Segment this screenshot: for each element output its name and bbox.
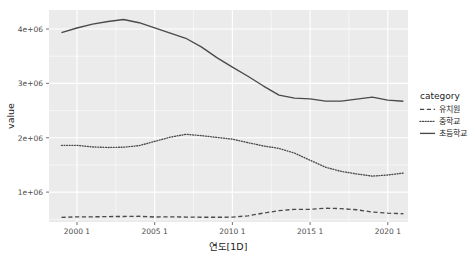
y-tick-label: 3e+06: [18, 79, 43, 88]
y-tick-label: 1e+06: [18, 188, 43, 197]
plot-panel: [49, 10, 408, 222]
legend-item-label: 유치원: [439, 105, 460, 114]
line-chart: 2000 12005 12010 12015 12020 1 1e+062e+0…: [0, 0, 475, 261]
chart-container: 2000 12005 12010 12015 12020 1 1e+062e+0…: [0, 0, 475, 261]
x-tick-label: 2020 1: [375, 227, 401, 236]
y-tick-label: 4e+06: [18, 25, 43, 34]
x-tick-label: 2005 1: [142, 227, 168, 236]
legend-item-label: 초등학교: [439, 128, 467, 138]
y-axis-title: value: [5, 103, 16, 129]
legend-item-label: 중학교: [439, 116, 460, 126]
x-tick-label: 2015 1: [297, 227, 323, 236]
x-tick-label: 2010 1: [219, 227, 245, 236]
x-tick-label: 2000 1: [64, 227, 90, 236]
y-tick-label: 2e+06: [18, 134, 43, 143]
x-axis-title: 연도[1D]: [209, 241, 248, 252]
legend-title: category: [420, 91, 460, 101]
